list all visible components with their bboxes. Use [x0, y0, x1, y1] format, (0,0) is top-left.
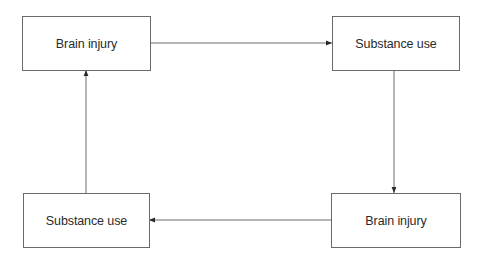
- node-label: Brain injury: [56, 37, 117, 51]
- node-label: Brain injury: [365, 214, 426, 228]
- node-top-right: Substance use: [332, 16, 460, 71]
- node-label: Substance use: [46, 214, 127, 228]
- node-top-left: Brain injury: [22, 16, 151, 71]
- node-bottom-right: Brain injury: [331, 193, 461, 248]
- node-label: Substance use: [355, 37, 436, 51]
- node-bottom-left: Substance use: [23, 193, 150, 248]
